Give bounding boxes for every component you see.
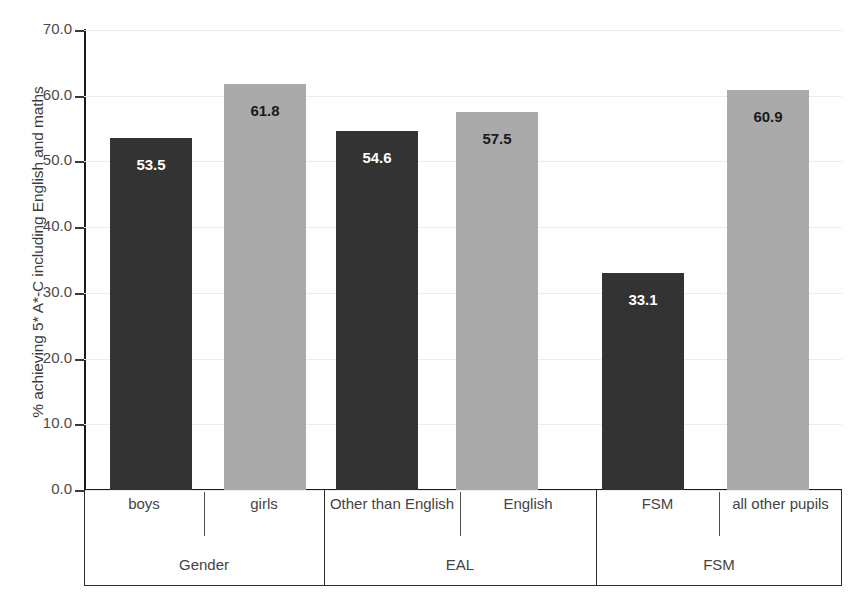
x-axis-category-label: all other pupils [719,490,842,542]
y-axis-tick-label: 50.0 [8,151,72,168]
y-axis-tick-label: 0.0 [8,480,72,497]
x-axis-category-label: girls [204,490,324,542]
x-axis-group-label: FSM [596,542,842,586]
y-axis-tick-label: 60.0 [8,86,72,103]
y-axis-tick-label: 10.0 [8,414,72,431]
bar-chart: % achieving 5* A*-C including English an… [0,0,857,595]
y-axis-tick-mark [75,96,84,98]
y-axis-tick-label: 70.0 [8,20,72,37]
plot-area: 53.561.854.657.533.160.9 [84,30,842,490]
bar[interactable]: 60.9 [727,90,809,490]
bar-value-label: 33.1 [602,291,684,308]
bar-value-label: 53.5 [110,156,192,173]
bar[interactable]: 57.5 [456,112,538,490]
y-axis-tick-label: 30.0 [8,283,72,300]
y-axis-tick-mark [75,227,84,229]
gridline [84,30,842,31]
bar[interactable]: 33.1 [602,273,684,491]
bar-value-label: 54.6 [336,149,418,166]
bar-value-label: 57.5 [456,130,538,147]
x-axis-label-table: boysgirlsGenderOther than EnglishEnglish… [84,490,842,586]
x-axis-category-label: FSM [596,490,719,542]
x-axis-category-label: Other than English [324,490,460,542]
y-axis-tick-label: 40.0 [8,217,72,234]
y-axis-tick-mark [75,161,84,163]
y-axis-tick-mark [75,30,84,32]
x-axis-category-label: English [460,490,596,542]
y-axis-tick-mark [75,293,84,295]
bar[interactable]: 53.5 [110,138,192,490]
y-axis-tick-label: 20.0 [8,349,72,366]
x-axis-group-label: EAL [324,542,596,586]
y-axis-tick-mark [75,424,84,426]
bar[interactable]: 54.6 [336,131,418,490]
x-axis-group-label: Gender [84,542,324,586]
x-axis-category-label: boys [84,490,204,542]
bar[interactable]: 61.8 [224,84,306,490]
bar-value-label: 60.9 [727,108,809,125]
bar-value-label: 61.8 [224,102,306,119]
y-axis-tick-mark [75,490,84,492]
y-axis-tick-mark [75,359,84,361]
